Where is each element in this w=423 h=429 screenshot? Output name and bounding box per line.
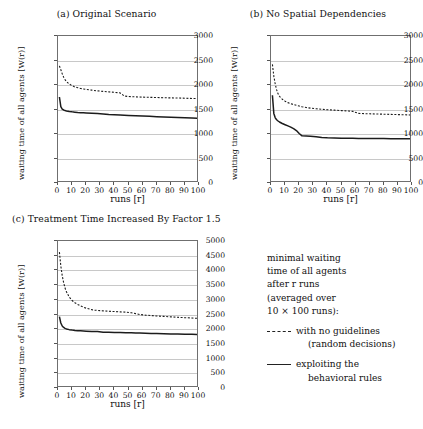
x-tick-mark xyxy=(184,182,185,185)
panel-a-y-axis-title: waiting time of all agents [W(r)] xyxy=(16,47,26,180)
y-tick-label: 2000 xyxy=(371,80,423,89)
x-tick-mark xyxy=(341,182,342,185)
y-tick-mark xyxy=(54,358,57,359)
y-tick-label: 5000 xyxy=(173,236,225,245)
x-tick-mark xyxy=(170,182,171,185)
x-tick-mark xyxy=(113,387,114,390)
legend-line-4: 10 × 100 runs): xyxy=(267,305,417,318)
y-tick-mark xyxy=(267,109,270,110)
legend-entry-solid: exploiting the behavioral rules xyxy=(267,358,417,384)
x-tick-mark xyxy=(128,182,129,185)
y-tick-mark xyxy=(267,133,270,134)
y-tick-label: 2500 xyxy=(371,55,423,64)
panel-b-x-axis-title: runs [r] xyxy=(270,194,411,204)
y-tick-label: 4000 xyxy=(173,265,225,274)
legend-entry-solid-label: exploiting the xyxy=(296,359,359,369)
y-tick-mark xyxy=(54,372,57,373)
x-tick-mark xyxy=(198,387,199,390)
x-tick-mark xyxy=(99,387,100,390)
x-tick-mark xyxy=(142,182,143,185)
x-tick-mark xyxy=(85,182,86,185)
y-tick-mark xyxy=(267,84,270,85)
x-tick-mark xyxy=(85,387,86,390)
y-tick-mark xyxy=(54,158,57,159)
y-tick-mark xyxy=(267,60,270,61)
legend-entry-dashed: with no guidelines (random decisions) xyxy=(267,325,417,351)
y-tick-mark xyxy=(54,109,57,110)
y-tick-label: 2000 xyxy=(173,324,225,333)
x-tick-mark xyxy=(298,182,299,185)
x-tick-mark xyxy=(411,182,412,185)
dashed-line-sample-icon xyxy=(267,325,293,338)
panel-c-y-axis-title: waiting time of all agents [W(r)] xyxy=(16,265,26,398)
solid-line-sample-icon xyxy=(267,358,293,371)
x-tick-mark xyxy=(113,182,114,185)
y-tick-mark xyxy=(54,255,57,256)
x-tick-mark xyxy=(397,182,398,185)
y-tick-label: 500 xyxy=(173,368,225,377)
panel-a: (a) Original Scenario waiting time of al… xyxy=(0,2,213,207)
x-tick-mark xyxy=(198,182,199,185)
x-tick-mark xyxy=(355,182,356,185)
y-tick-label: 1000 xyxy=(161,129,213,138)
panel-c-x-axis-title: runs [r] xyxy=(57,399,198,409)
y-tick-label: 2500 xyxy=(161,55,213,64)
panel-c: (c) Treatment Time Increased By Factor 1… xyxy=(0,208,225,429)
x-tick-mark xyxy=(99,182,100,185)
y-tick-mark xyxy=(54,299,57,300)
y-tick-mark xyxy=(267,35,270,36)
y-tick-mark xyxy=(54,269,57,270)
y-tick-mark xyxy=(54,343,57,344)
legend: minimal waiting time of all agents after… xyxy=(267,252,417,385)
panel-a-title: (a) Original Scenario xyxy=(0,8,213,19)
legend-line-0: minimal waiting xyxy=(267,252,417,265)
y-tick-label: 1000 xyxy=(371,129,423,138)
panel-b-y-axis-title: waiting time of all agents [W(r)] xyxy=(229,47,239,180)
y-tick-label: 3000 xyxy=(371,31,423,40)
x-tick-mark xyxy=(156,182,157,185)
x-tick-mark xyxy=(312,182,313,185)
panel-a-x-axis-title: runs [r] xyxy=(57,194,198,204)
x-tick-mark xyxy=(326,182,327,185)
y-tick-label: 1500 xyxy=(173,338,225,347)
x-tick-mark xyxy=(383,182,384,185)
y-tick-label: 4500 xyxy=(173,250,225,259)
x-tick-mark xyxy=(57,182,58,185)
x-tick-mark xyxy=(369,182,370,185)
y-tick-label: 2000 xyxy=(161,80,213,89)
y-tick-mark xyxy=(267,158,270,159)
x-tick-mark xyxy=(142,387,143,390)
x-tick-mark xyxy=(156,387,157,390)
y-tick-mark xyxy=(54,60,57,61)
legend-line-2: after r runs xyxy=(267,278,417,291)
x-tick-mark xyxy=(170,387,171,390)
x-tick-mark xyxy=(284,182,285,185)
y-tick-label: 1000 xyxy=(173,353,225,362)
y-tick-label: 3000 xyxy=(161,31,213,40)
y-tick-mark xyxy=(54,133,57,134)
legend-entry-solid-label2: behavioral rules xyxy=(296,372,382,385)
x-tick-mark xyxy=(57,387,58,390)
y-tick-label: 500 xyxy=(161,153,213,162)
y-tick-label: 3000 xyxy=(173,294,225,303)
y-tick-mark xyxy=(54,240,57,241)
y-tick-mark xyxy=(54,35,57,36)
x-tick-mark xyxy=(71,387,72,390)
y-tick-label: 1500 xyxy=(371,104,423,113)
y-tick-mark xyxy=(54,84,57,85)
y-tick-label: 2500 xyxy=(173,309,225,318)
x-tick-mark xyxy=(184,387,185,390)
legend-entry-dashed-label: with no guidelines xyxy=(296,326,380,336)
legend-entry-dashed-label2: (random decisions) xyxy=(296,338,395,351)
panel-c-title: (c) Treatment Time Increased By Factor 1… xyxy=(12,213,237,224)
panel-b: (b) No Spatial Dependencies waiting time… xyxy=(213,2,423,207)
x-tick-mark xyxy=(270,182,271,185)
y-tick-mark xyxy=(54,328,57,329)
y-tick-mark xyxy=(54,284,57,285)
y-tick-label: 1500 xyxy=(161,104,213,113)
y-tick-label: 3500 xyxy=(173,280,225,289)
panel-b-title: (b) No Spatial Dependencies xyxy=(213,8,423,19)
legend-line-3: (averaged over xyxy=(267,292,417,305)
x-tick-mark xyxy=(71,182,72,185)
y-tick-label: 500 xyxy=(371,153,423,162)
